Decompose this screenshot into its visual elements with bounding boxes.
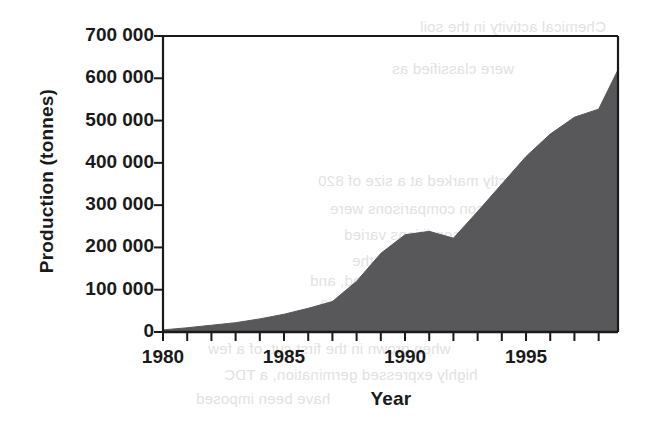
production-area-chart-figure: Chemical activity in the soilwere classi…: [0, 0, 646, 431]
y-tick-label-0: 0: [20, 320, 154, 342]
y-axis-title: Production (tonnes): [36, 71, 58, 291]
x-tick-label-1995: 1995: [486, 346, 566, 368]
x-axis-tick-marks: [163, 332, 599, 341]
x-tick-label-1990: 1990: [365, 346, 445, 368]
x-axis-title: Year: [163, 388, 619, 410]
x-tick-label-1980: 1980: [123, 346, 203, 368]
y-axis-tick-marks: [154, 36, 163, 332]
y-tick-label-700000: 700 000: [20, 24, 154, 46]
x-tick-label-1985: 1985: [244, 346, 324, 368]
production-area-series: [163, 70, 618, 332]
